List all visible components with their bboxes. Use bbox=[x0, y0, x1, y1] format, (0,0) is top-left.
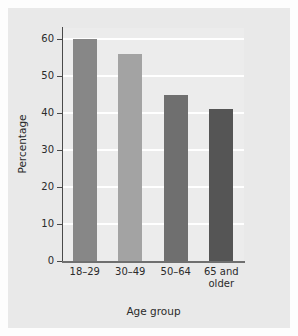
y-axis-tick-label: 40 bbox=[28, 108, 54, 118]
y-axis-tick-label: 30 bbox=[28, 145, 54, 155]
y-axis-tick-label: 0 bbox=[28, 256, 54, 266]
x-axis-tick-label: 65 and older bbox=[199, 266, 245, 289]
bar bbox=[209, 109, 233, 261]
x-axis-tick-label: 50–64 bbox=[153, 266, 199, 278]
y-axis-tick-label: 60 bbox=[28, 34, 54, 44]
x-axis-line bbox=[62, 261, 245, 263]
y-axis-tick-label: 50 bbox=[28, 71, 54, 81]
y-axis-title: Percentage bbox=[16, 99, 28, 189]
bar bbox=[73, 39, 97, 261]
bar bbox=[164, 95, 188, 261]
x-axis-tick-label: 30–49 bbox=[108, 266, 154, 278]
chart-figure: 0102030405060 18–2930–4950–6465 and olde… bbox=[0, 0, 298, 336]
x-axis-title: Age group bbox=[62, 305, 245, 317]
y-axis-tick-label: 20 bbox=[28, 182, 54, 192]
bar bbox=[118, 54, 142, 261]
y-axis-tick-label: 10 bbox=[28, 219, 54, 229]
x-axis-tick-label: 18–29 bbox=[62, 266, 108, 278]
bar-series bbox=[62, 28, 244, 261]
